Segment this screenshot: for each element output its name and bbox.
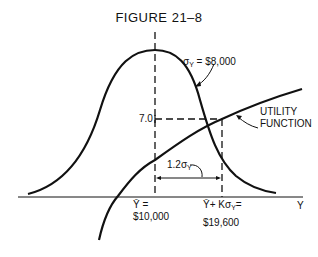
interval-label: 1.2σY	[167, 159, 192, 174]
x-axis-label: Y	[297, 200, 304, 212]
utility-label: UTILITYFUNCTION	[260, 106, 312, 130]
y-level-label: 7.0	[139, 113, 153, 125]
upper-label: Ȳ+ KσY=$19,600	[203, 199, 242, 229]
mean-label: Ȳ =$10,000	[133, 199, 169, 223]
sigma-label: σY = $8,000	[183, 56, 236, 71]
utility-leader-arrow	[238, 117, 258, 128]
